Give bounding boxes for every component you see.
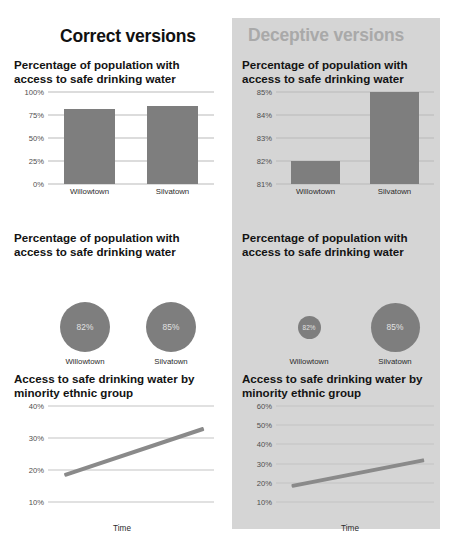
bubble: 85% [371,303,420,352]
plot-area: 10%20%30%40% [48,406,214,502]
gridline [48,406,214,407]
x-axis-tick-label: Willowtown [70,187,109,196]
gridline [48,438,214,439]
gridline [276,502,434,503]
y-axis-tick-label: 84% [257,111,276,120]
gridline [48,502,214,503]
infographic-page: Correct versions Deceptive versions Perc… [0,0,455,546]
bubble: 82% [60,302,110,352]
y-axis-tick-label: 10% [257,498,276,507]
y-axis-tick-label: 81% [257,180,276,189]
bubble-label: Willowtown [290,357,329,366]
gridline [48,92,214,93]
x-axis-tick-label: Willowtown [296,187,335,196]
chart-title: Percentage of population with access to … [242,58,442,86]
chart-title: Access to safe drinking water by minorit… [14,372,214,400]
bubble-area: 82%Willowtown85%Silvatown [42,265,214,357]
bubble-label: Silvatown [378,357,411,366]
bubble-area: 82%Willowtown85%Silvatown [266,265,438,357]
y-axis-tick-label: 30% [257,459,276,468]
y-axis-tick-label: 40% [29,402,48,411]
y-axis-tick-label: 50% [29,134,48,143]
x-axis-title: Time [113,524,131,533]
y-axis-tick-label: 20% [29,466,48,475]
plot-area: 0%25%50%75%100%WillowtownSilvatown [48,92,214,184]
x-axis-tick-label: Silvatown [378,187,411,196]
gridline [276,406,434,407]
y-axis-tick-label: 60% [257,402,276,411]
y-axis-tick-label: 0% [33,180,48,189]
bubble: 85% [146,302,196,352]
y-axis-tick-label: 30% [29,434,48,443]
gridline [276,444,434,445]
y-axis-tick-label: 75% [29,111,48,120]
bar [64,109,115,184]
chart-title: Percentage of population with access to … [14,58,214,86]
y-axis-tick-label: 83% [257,134,276,143]
chart-title: Access to safe drinking water by minorit… [242,372,442,400]
bubble-label: Willowtown [66,357,105,366]
chart-line-correct: Access to safe drinking water by minorit… [14,372,214,502]
plot-area: 81%82%83%84%85%WillowtownSilvatown [276,92,434,184]
chart-title: Percentage of population with access to … [242,231,442,259]
chart-bubble-correct: Percentage of population with access to … [14,231,214,357]
bar [147,106,198,184]
x-axis-title: Time [341,524,359,533]
gridline [276,425,434,426]
chart-line-deceptive: Access to safe drinking water by minorit… [242,372,442,502]
bubble-label: Silvatown [154,357,187,366]
heading-deceptive-versions: Deceptive versions [248,25,404,46]
chart-bar-correct: Percentage of population with access to … [14,58,214,184]
y-axis-tick-label: 10% [29,498,48,507]
y-axis-tick-label: 100% [25,88,48,97]
plot-area: 10%20%30%40%50%60% [276,406,434,502]
y-axis-tick-label: 20% [257,478,276,487]
y-axis-tick-label: 40% [257,440,276,449]
x-axis-tick-label: Silvatown [156,187,189,196]
y-axis-tick-label: 25% [29,157,48,166]
bar [370,92,419,184]
y-axis-tick-label: 82% [257,157,276,166]
chart-title: Percentage of population with access to … [14,231,214,259]
bubble: 82% [298,316,321,339]
chart-bubble-deceptive: Percentage of population with access to … [242,231,442,357]
bar [291,161,340,184]
chart-bar-deceptive: Percentage of population with access to … [242,58,442,184]
heading-correct-versions: Correct versions [60,26,196,47]
y-axis-tick-label: 85% [257,88,276,97]
y-axis-tick-label: 50% [257,421,276,430]
